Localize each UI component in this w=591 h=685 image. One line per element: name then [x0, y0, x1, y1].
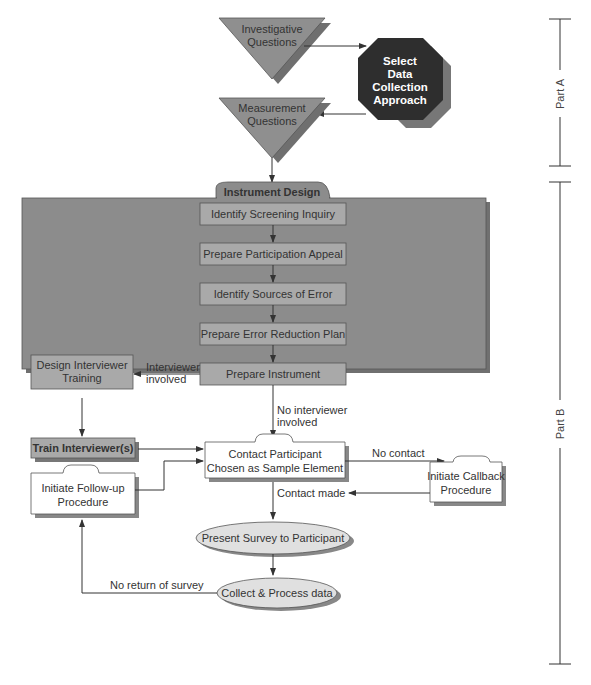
- callback-node: Initiate Callback Procedure: [427, 456, 506, 506]
- follow-up-node: Initiate Follow-up Procedure: [31, 465, 139, 518]
- no-interviewer-line-1: No interviewer: [277, 404, 348, 416]
- step-sources-of-error: Identify Sources of Error: [200, 283, 346, 305]
- present-survey-label: Present Survey to Participant: [202, 532, 344, 544]
- step-prepare-appeal: Prepare Participation Appeal: [200, 243, 346, 265]
- design-interviewer-training-node: Design Interviewer Training: [31, 355, 133, 389]
- part-b-label: Part B: [554, 409, 566, 440]
- no-return-label: No return of survey: [110, 579, 204, 591]
- contact-participant-line-2: Chosen as Sample Element: [207, 462, 343, 474]
- select-approach-line-4: Approach: [373, 94, 427, 106]
- contact-participant-line-1: Contact Participant: [229, 448, 322, 460]
- callback-line-1: Initiate Callback: [427, 470, 505, 482]
- callback-line-2: Procedure: [441, 484, 492, 496]
- part-a-label: Part A: [554, 78, 566, 109]
- design-training-line-1: Design Interviewer: [36, 359, 127, 371]
- arrow-follow-up-to-contact: [135, 461, 203, 490]
- interviewer-involved-line-2: involved: [146, 373, 186, 385]
- investigative-line-1: Investigative: [241, 23, 302, 35]
- step-label: Prepare Participation Appeal: [203, 248, 342, 260]
- no-contact-label: No contact: [372, 447, 425, 459]
- train-interviewers-node: Train Interviewer(s): [31, 438, 139, 462]
- collect-process-node: Collect & Process data: [217, 578, 341, 611]
- investigative-questions-node: Investigative Questions: [219, 18, 331, 84]
- step-label: Identify Screening Inquiry: [211, 208, 336, 220]
- select-approach-line-3: Collection: [372, 81, 428, 93]
- step-identify-screening: Identify Screening Inquiry: [200, 203, 346, 225]
- present-survey-node: Present Survey to Participant: [196, 522, 354, 557]
- investigative-line-2: Questions: [247, 36, 297, 48]
- measurement-questions-node: Measurement Questions: [219, 98, 331, 163]
- measurement-line-2: Questions: [247, 115, 297, 127]
- select-approach-line-1: Select: [383, 55, 417, 67]
- step-label: Prepare Instrument: [226, 368, 320, 380]
- train-interviewers-label: Train Interviewer(s): [33, 442, 134, 454]
- instrument-design-title: Instrument Design: [224, 186, 321, 198]
- contact-made-label: Contact made: [277, 487, 345, 499]
- follow-up-line-2: Procedure: [58, 496, 109, 508]
- interviewer-involved-line-1: Interviewer: [146, 361, 200, 373]
- part-a-bracket: Part A: [549, 19, 571, 166]
- select-approach-line-2: Data: [388, 68, 414, 80]
- flowchart: Investigative Questions Select Data Coll…: [0, 0, 591, 685]
- follow-up-line-1: Initiate Follow-up: [41, 482, 124, 494]
- no-interviewer-line-2: involved: [277, 416, 317, 428]
- step-label: Prepare Error Reduction Plan: [201, 328, 345, 340]
- collect-process-label: Collect & Process data: [221, 587, 333, 599]
- step-error-reduction-plan: Prepare Error Reduction Plan: [200, 323, 346, 345]
- select-approach-node: Select Data Collection Approach: [358, 38, 451, 128]
- contact-participant-node: Contact Participant Chosen as Sample Ele…: [205, 434, 349, 482]
- design-training-line-2: Training: [62, 372, 101, 384]
- step-prepare-instrument: Prepare Instrument: [200, 363, 346, 385]
- measurement-line-1: Measurement: [238, 102, 305, 114]
- step-label: Identify Sources of Error: [214, 288, 333, 300]
- part-b-bracket: Part B: [549, 182, 571, 664]
